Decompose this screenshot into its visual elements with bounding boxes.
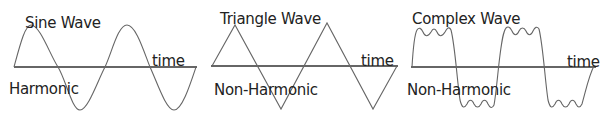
classification-label: Non-Harmonic: [407, 81, 511, 99]
axis-label: time: [567, 53, 600, 71]
panel-title: Triangle Wave: [219, 10, 321, 28]
panel-sine: Sine Wave time Harmonic: [9, 14, 197, 110]
panel-complex: Complex Wave time Non-Harmonic: [407, 10, 600, 108]
classification-label: Harmonic: [9, 80, 79, 98]
axis-label: time: [361, 52, 394, 70]
panel-triangle: Triangle Wave time Non-Harmonic: [211, 10, 398, 109]
panel-title: Complex Wave: [412, 10, 520, 28]
waveform-diagram: Sine Wave time Harmonic Triangle Wave ti…: [0, 0, 605, 121]
axis-label: time: [152, 52, 185, 70]
classification-label: Non-Harmonic: [214, 81, 318, 99]
panel-title: Sine Wave: [25, 14, 101, 32]
